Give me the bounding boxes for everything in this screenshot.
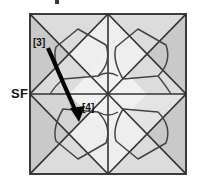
pattern-diagram (0, 0, 203, 194)
cropped-text-remnant (55, 0, 59, 4)
label-node-4: [4] (82, 103, 94, 113)
label-node-3: [3] (33, 38, 45, 48)
figure-container: SF [3] [4] (0, 0, 203, 194)
pattern-body (30, 14, 186, 174)
label-sf: SF (11, 87, 28, 100)
